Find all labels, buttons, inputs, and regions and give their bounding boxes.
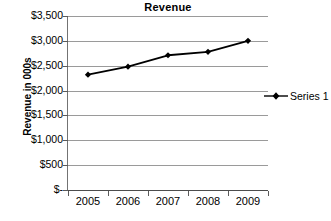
y-axis-tick-labels: $-$500$1,000$1,500$2,000$2,500$3,000$3,5… [0, 0, 63, 221]
y-tick-mark [63, 140, 68, 141]
x-tick-mark [108, 191, 109, 196]
series-line-1 [68, 16, 268, 190]
x-tick-label: 2008 [186, 195, 230, 208]
y-tick-mark [63, 165, 68, 166]
data-point-marker [125, 64, 131, 70]
x-axis-line [68, 190, 268, 191]
y-tick-mark [63, 66, 68, 67]
legend-label-series-1: Series 1 [288, 90, 329, 102]
x-tick-label: 2005 [66, 195, 110, 208]
legend-marker-icon [264, 90, 288, 102]
y-tick-mark [63, 16, 68, 17]
revenue-line-chart: Revenue Revenue in 000s $-$500$1,000$1,5… [0, 0, 331, 221]
x-tick-mark [268, 191, 269, 196]
data-point-marker [205, 49, 211, 55]
chart-legend: Series 1 [264, 89, 329, 103]
x-tick-label: 2009 [226, 195, 270, 208]
x-tick-label: 2007 [146, 195, 190, 208]
y-tick-label: $- [5, 184, 63, 195]
y-tick-label: $3,500 [5, 10, 63, 21]
y-tick-label: $1,000 [5, 134, 63, 145]
y-tick-label: $500 [5, 159, 63, 170]
plot-area [68, 16, 268, 190]
y-tick-label: $2,000 [5, 85, 63, 96]
y-tick-label: $3,000 [5, 35, 63, 46]
y-tick-mark [63, 41, 68, 42]
x-tick-mark [188, 191, 189, 196]
data-point-marker [85, 72, 91, 78]
x-tick-mark [228, 191, 229, 196]
data-point-marker [245, 38, 251, 44]
data-point-marker [165, 52, 171, 58]
x-tick-label: 2006 [106, 195, 150, 208]
x-tick-mark [68, 191, 69, 196]
y-tick-mark [63, 91, 68, 92]
chart-title: Revenue [68, 1, 268, 14]
y-tick-mark [63, 115, 68, 116]
y-tick-label: $1,500 [5, 109, 63, 120]
x-tick-mark [148, 191, 149, 196]
y-tick-label: $2,500 [5, 60, 63, 71]
